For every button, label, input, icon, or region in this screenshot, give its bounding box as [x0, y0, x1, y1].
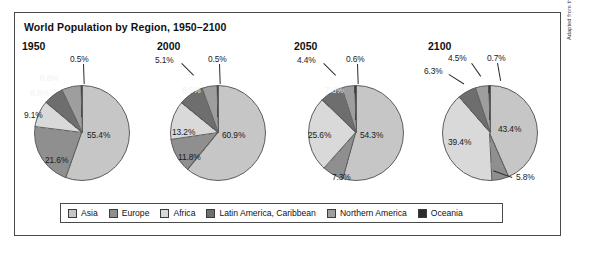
pie-slice-label: 60.9% [222, 130, 245, 140]
legend-label: Asia [81, 208, 98, 218]
pie-slice-label: 0.6% [346, 54, 365, 64]
pie-slice-label: 4.4% [297, 55, 316, 65]
legend-item: Northern America [327, 208, 407, 218]
legend-item: Europe [109, 208, 150, 218]
figure-title: World Population by Region, 1950–2100 [24, 21, 226, 33]
legend-label: Africa [173, 208, 195, 218]
legend-swatch-icon [68, 209, 77, 218]
pie-slice-label: 0.5% [70, 54, 89, 64]
pie-slice-label: 7.8% [325, 85, 344, 95]
legend-swatch-icon [206, 209, 215, 218]
pie-slice-label: 13.2% [172, 127, 195, 137]
source-credit: Adapted from the United Nations Populati… [566, 0, 572, 40]
legend-label: Northern America [340, 208, 407, 218]
pie-slice-label: 4.5% [448, 53, 467, 63]
legend-item: Asia [68, 208, 98, 218]
panel-year-label: 1950 [22, 40, 45, 52]
pie-slice-label: 5.1% [155, 55, 174, 65]
panel-year-label: 2050 [294, 40, 317, 52]
legend-swatch-icon [160, 209, 169, 218]
legend-swatch-icon [109, 209, 118, 218]
panel-year-label: 2100 [428, 40, 451, 52]
pie-slice-label: 6.8% [30, 88, 49, 98]
pie-slice-label: 54.3% [360, 130, 383, 140]
legend-label: Latin America, Caribbean [219, 208, 316, 218]
legend-label: Oceania [431, 208, 463, 218]
figure-root: World Population by Region, 1950–2100 19… [0, 0, 601, 257]
pie-slice-label: 43.4% [498, 124, 521, 134]
pie-slice-label: 8.5% [182, 85, 201, 95]
legend-item: Africa [160, 208, 195, 218]
legend-item: Latin America, Caribbean [206, 208, 316, 218]
pie-slice-label: 9.1% [24, 110, 43, 120]
legend-label: Europe [122, 208, 150, 218]
pie-slice-label: 39.4% [448, 137, 471, 147]
pie-slice-label: 21.6% [45, 155, 68, 165]
pie-slice-label: 25.6% [308, 130, 331, 140]
pie-slice-label: 55.4% [87, 130, 110, 140]
legend-item: Oceania [418, 208, 463, 218]
chart-legend: AsiaEuropeAfricaLatin America, Caribbean… [60, 203, 503, 223]
legend-swatch-icon [327, 209, 336, 218]
pie-slice-label: 5.8% [516, 172, 535, 182]
panel-year-label: 2000 [157, 40, 180, 52]
pie-slice-label: 11.8% [178, 152, 201, 162]
pie-slice-label: 0.7% [487, 53, 506, 63]
pie-slice-label: 0.5% [208, 54, 227, 64]
pie-slice-label: 6.6% [40, 73, 59, 83]
legend-swatch-icon [418, 209, 427, 218]
pie-slice-label: 7.3% [332, 172, 351, 182]
pie-slice-label: 6.3% [424, 66, 443, 76]
